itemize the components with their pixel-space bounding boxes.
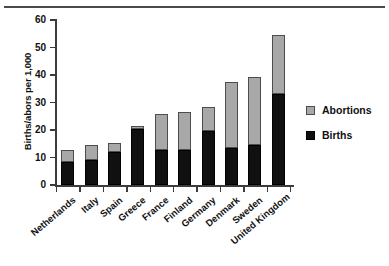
y-tick-label-20: 20 xyxy=(20,125,46,135)
bar-segment-abortions[interactable] xyxy=(61,150,74,162)
y-tick-label-0: 0 xyxy=(20,180,46,190)
bar-segment-births[interactable] xyxy=(248,145,261,185)
plot-area xyxy=(56,20,290,185)
black-square-swatch xyxy=(306,131,315,140)
x-tick-9 xyxy=(267,186,268,192)
chart-figure: Births/abors per 1,000 0102030405060 Net… xyxy=(0,0,389,266)
bar-segment-births[interactable] xyxy=(131,129,144,185)
bar-group[interactable] xyxy=(225,20,238,185)
bar-group[interactable] xyxy=(248,20,261,185)
bar-group[interactable] xyxy=(272,20,285,185)
legend-label-abortions: Abortions xyxy=(322,104,372,116)
x-tick-4 xyxy=(150,186,151,192)
bar-segment-births[interactable] xyxy=(178,150,191,185)
bar-group[interactable] xyxy=(178,20,191,185)
bar-segment-abortions[interactable] xyxy=(85,145,98,160)
bar-segment-births[interactable] xyxy=(61,162,74,185)
bar-group[interactable] xyxy=(131,20,144,185)
x-tick-end xyxy=(290,186,291,192)
x-axis-line xyxy=(55,185,294,187)
y-tick-label-30: 30 xyxy=(20,98,46,108)
legend-label-births: Births xyxy=(322,129,352,141)
bar-group[interactable] xyxy=(61,20,74,185)
bar-segment-abortions[interactable] xyxy=(248,77,261,145)
bar-group[interactable] xyxy=(202,20,215,185)
x-tick-2 xyxy=(103,186,104,192)
bar-group[interactable] xyxy=(108,20,121,185)
bar-segment-abortions[interactable] xyxy=(131,126,144,129)
gray-square-swatch xyxy=(306,106,315,115)
x-tick-6 xyxy=(196,186,197,192)
y-tick-label-50: 50 xyxy=(20,43,46,53)
y-tick-label-10: 10 xyxy=(20,153,46,163)
y-tick-label-40: 40 xyxy=(20,70,46,80)
bar-segment-births[interactable] xyxy=(225,148,238,185)
bar-segment-births[interactable] xyxy=(108,152,121,185)
bar-segment-abortions[interactable] xyxy=(155,114,168,150)
bar-segment-abortions[interactable] xyxy=(108,143,121,152)
chart-legend: Abortions Births xyxy=(306,104,386,154)
x-tick-3 xyxy=(126,186,127,192)
legend-item-abortions[interactable]: Abortions xyxy=(306,104,386,116)
bar-segment-births[interactable] xyxy=(272,94,285,185)
x-tick-7 xyxy=(220,186,221,192)
bar-segment-abortions[interactable] xyxy=(225,82,238,148)
bar-segment-abortions[interactable] xyxy=(272,35,285,94)
x-tick-8 xyxy=(243,186,244,192)
bar-segment-births[interactable] xyxy=(155,150,168,185)
bar-segment-births[interactable] xyxy=(85,160,98,185)
y-tick-label-60: 60 xyxy=(20,15,46,25)
bar-group[interactable] xyxy=(85,20,98,185)
x-tick-5 xyxy=(173,186,174,192)
legend-item-births[interactable]: Births xyxy=(306,129,386,141)
bar-segment-births[interactable] xyxy=(202,131,215,185)
x-tick-0 xyxy=(56,186,57,192)
top-rule-divider xyxy=(4,6,385,8)
bar-group[interactable] xyxy=(155,20,168,185)
x-tick-1 xyxy=(79,186,80,192)
bar-segment-abortions[interactable] xyxy=(202,107,215,132)
bar-segment-abortions[interactable] xyxy=(178,112,191,150)
